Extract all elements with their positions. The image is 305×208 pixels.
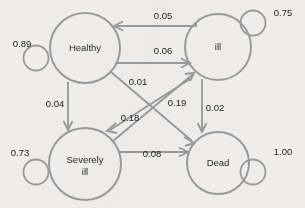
node-label-severely-ill-line1: Severely (67, 154, 104, 165)
self-loop-healthy (24, 46, 49, 71)
edge-label-severely-ill-to-ill: 0.19 (168, 97, 187, 108)
edge-ill-to-healthy (114, 22, 196, 31)
node-healthy[interactable]: Healthy (50, 13, 120, 83)
node-ill[interactable]: ill (185, 14, 251, 80)
self-loop-label-dead: 1.00 (274, 146, 293, 157)
node-label-dead: Dead (207, 157, 230, 168)
edge-label-severely-ill-to-dead: 0.08 (143, 148, 162, 159)
node-dead[interactable]: Dead (187, 132, 249, 194)
self-loop-label-severely-ill: 0.73 (11, 147, 30, 158)
edge-label-healthy-to-ill: 0.06 (154, 45, 173, 56)
edge-label-ill-to-severely-ill: 0.18 (121, 112, 140, 123)
edge-label-ill-to-dead: 0.02 (206, 102, 225, 113)
node-label-ill: ill (215, 41, 221, 52)
diagram-canvas: Healthy ill Severely ill Dead 0.89 0.75 … (0, 0, 305, 208)
edge-healthy-to-severely-ill (64, 82, 73, 130)
self-loop-label-healthy: 0.89 (13, 38, 32, 49)
edge-label-healthy-to-severely-ill: 0.04 (46, 98, 65, 109)
edge-healthy-to-ill (115, 59, 190, 68)
node-label-severely-ill-line2: ill (82, 166, 88, 177)
self-loop-label-ill: 0.75 (274, 7, 293, 18)
edge-label-ill-to-healthy: 0.05 (154, 10, 173, 21)
node-severely-ill[interactable]: Severely ill (49, 128, 121, 200)
self-loop-ill (241, 11, 266, 36)
state-transition-diagram: Healthy ill Severely ill Dead 0.89 0.75 … (0, 0, 305, 208)
node-label-healthy: Healthy (69, 42, 101, 53)
edge-label-healthy-to-dead: 0.01 (129, 76, 148, 87)
self-loop-severely-ill (24, 160, 49, 185)
